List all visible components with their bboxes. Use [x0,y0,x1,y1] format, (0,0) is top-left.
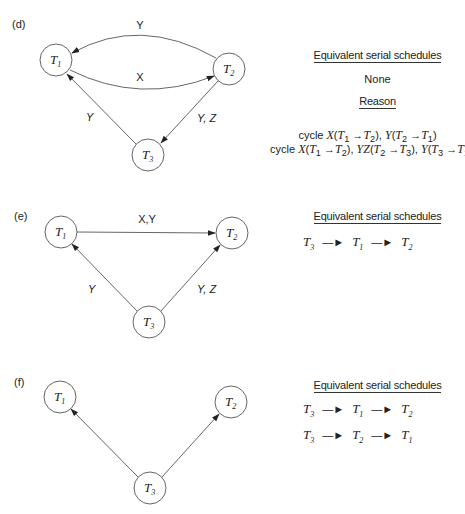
edge-f-t3-t2 [162,414,219,477]
node-label-d-t3: T3 [142,147,153,164]
edge-label-e-yz: Y, Z [197,283,217,295]
panel-label-e: (e) [14,210,27,222]
schedule-arrow-icon: —► [371,429,393,441]
edge-f-t3-t1 [71,409,138,477]
schedule-arrow-icon: —► [322,429,344,441]
node-label-e-t2: T2 [226,225,237,242]
edge-e-t3-t1-y [72,244,137,311]
node-label-e-t1: T1 [55,224,66,241]
node-label-f-t3: T3 [144,480,155,497]
node-label-e-t3: T3 [143,314,154,331]
schedule-arrow-icon: —► [371,236,393,248]
edge-label-d-y-left: Y [86,111,94,123]
edge-label-d-x: X [136,71,144,83]
schedule-f-2: T3—►T2—►T1 [290,427,453,445]
heading-equivalent-schedules: Equivalent serial schedules [314,210,442,224]
schedule-e-1: T3—►T1—►T2 [290,234,453,252]
side-panel-f: Equivalent serial schedules [290,379,465,393]
node-label-d-t2: T2 [223,61,234,78]
side-panel-d: Equivalent serial schedules None Reason [290,49,465,109]
edge-label-d-y-top: Y [136,19,144,31]
schedule-arrow-icon: —► [322,236,344,248]
schedule-arrow-icon: —► [371,403,393,415]
edge-d-t3-t1-y [67,74,136,144]
edge-label-d-yz: Y, Z [197,112,217,124]
reasons-d: cycle X(T1 →T2), Y(T2 →T1) cycle X(T1 →T… [270,128,465,158]
schedule-arrow-icon: —► [322,403,344,415]
edge-e-t1-t2-xy [77,232,215,233]
heading-equivalent-schedules: Equivalent serial schedules [314,49,442,63]
edge-label-e-y: Y [88,283,96,295]
edge-label-e-xy: X,Y [138,213,156,225]
reason-heading: Reason [359,95,396,109]
node-label-d-t1: T1 [50,52,61,69]
node-label-f-t1: T1 [54,389,65,406]
schedules-none: None [290,73,465,85]
reason-line-2: cycle X(T1 →T2), YZ(T2 →T3), Y(T3 →T1) [270,142,465,158]
schedule-f-1: T3—►T1—►T2 [290,401,453,419]
node-label-f-t2: T2 [225,394,236,411]
side-panel-e: Equivalent serial schedules [290,210,465,224]
edge-e-t3-t2-yz [161,245,220,311]
edge-d-t2-t1-y [72,35,216,58]
heading-equivalent-schedules: Equivalent serial schedules [314,379,442,393]
panel-label-d: (d) [12,18,25,30]
panel-label-f: (f) [14,376,24,388]
